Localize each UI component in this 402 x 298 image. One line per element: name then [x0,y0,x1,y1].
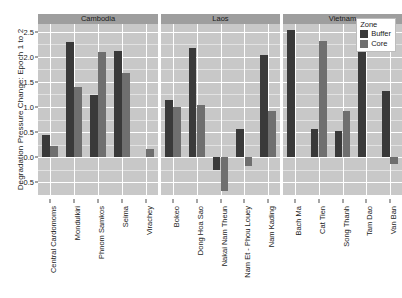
x-axis-tick-mark [342,199,343,203]
x-axis-tick-mark [244,199,245,203]
bar-buffer [358,41,366,158]
bar-buffer [42,135,50,157]
x-axis-tick-mark [146,199,147,203]
x-axis-tick-mark [98,199,99,203]
x-axis-tick-mark [74,199,75,203]
gridline-vertical [50,24,51,195]
bar-core [268,111,276,158]
x-axis-tick-label: Dong Hoa Sao [195,206,204,255]
gridline-vertical [146,24,147,195]
x-axis-tick-label: Seima [121,206,130,227]
x-axis-tick-mark [196,199,197,203]
legend-item-core[interactable]: Core [360,40,391,48]
bar-buffer [90,95,98,157]
x-axis: Central CardomomsMondulkiriPhnom SamkosS… [38,199,402,298]
gridline-vertical [268,24,269,195]
gridline-vertical [295,24,296,195]
gridline-vertical [343,24,344,195]
bar-core [74,87,82,157]
x-axis-tick-label: Van Ban [389,206,398,234]
facet-strip: Laos [161,14,280,24]
y-axis-tick-label: 2.0 [24,52,34,61]
x-axis-tick-mark [122,199,123,203]
bar-core [146,149,154,157]
bar-buffer [189,48,197,157]
x-axis-tick-label: Cat Tien [317,206,326,234]
facet-strip-label: Cambodia [81,15,115,23]
bar-core [221,157,229,191]
facet-strip-label: Laos [212,15,228,23]
x-axis-tick-mark [390,199,391,203]
bar-buffer [382,91,390,157]
y-axis-tick-label: 2.5 [24,27,34,36]
legend-title: Zone [360,21,391,29]
x-axis-tick-label: Nam Et - Phou Louey [243,206,252,278]
bar-buffer [165,100,173,157]
bar-core [390,157,398,164]
x-axis-tick-mark [172,199,173,203]
bar-buffer [66,42,74,158]
legend-item-label: Buffer [371,30,391,38]
x-axis-tick-label: Bach Ma [293,206,302,236]
x-axis-tick-mark [50,199,51,203]
y-axis: 2.52.01.51.00.50.0-0.5 [14,14,38,199]
x-axis-tick-mark [268,199,269,203]
x-axis-tick-label: Phnom Samkos [97,206,106,259]
y-axis-tick-label: 0.5 [24,128,34,137]
y-axis-tick-label: 1.5 [24,77,34,86]
bar-core [343,111,351,158]
facet-strip-label: Vietnam [329,15,356,23]
bar-buffer [287,30,295,157]
bar-core [50,146,58,157]
bar-core [173,107,181,157]
bar-buffer [114,51,122,158]
y-axis-tick-label: 1.0 [24,102,34,111]
x-axis-tick-mark [220,199,221,203]
y-axis-tick-label: 0.0 [24,153,34,162]
x-axis-tick-label: Mondulkiri [73,206,82,240]
bar-buffer [236,129,244,158]
x-axis-tick-mark [366,199,367,203]
x-axis-group: Bach MaCat TienSong ThanhTam DaoVan Ban [283,199,402,298]
x-axis-tick-label: Nam Kading [267,206,276,247]
bar-core [122,73,130,157]
x-axis-group: BokeoDong Hoa SaoNakai Nam TheunNam Et -… [161,199,280,298]
legend-swatch-core [360,40,368,48]
facet-panel-laos: Laos [161,14,280,195]
legend: Zone BufferCore [356,18,396,52]
bar-buffer [213,157,221,170]
plot-area [161,24,280,195]
x-axis-tick-label: Bokeo [171,206,180,227]
bar-buffer [335,131,343,157]
x-axis-tick-label: Central Cardomoms [49,206,58,273]
chart-root: Degradation Pressure Change: Epoch 1 to … [0,0,402,298]
facet-panels: CambodiaLaosVietnam [38,14,402,195]
bar-core [319,41,327,158]
gridline-vertical [244,24,245,195]
bar-core [197,105,205,157]
facet-panel-cambodia: Cambodia [38,14,158,195]
x-axis-tick-label: Nakai Nam Theun [219,206,228,266]
x-axis-tick-mark [294,199,295,203]
bar-buffer [260,55,268,157]
bar-buffer [311,129,319,157]
y-axis-tick-label: -0.5 [21,178,34,187]
x-axis-tick-label: Virachey [145,206,154,235]
plot-area [38,24,158,195]
x-axis-tick-label: Tam Dao [365,206,374,236]
legend-swatch-buffer [360,30,368,38]
x-axis-tick-label: Song Thanh [341,206,350,247]
facet-strip: Cambodia [38,14,158,24]
bar-core [98,52,106,158]
legend-item-label: Core [371,40,387,48]
x-axis-group: Central CardomomsMondulkiriPhnom SamkosS… [38,199,158,298]
bar-core [245,157,253,166]
legend-item-buffer[interactable]: Buffer [360,30,391,38]
x-axis-tick-mark [318,199,319,203]
